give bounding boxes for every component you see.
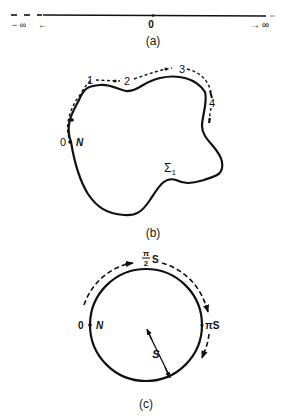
quarter-point-label: π 2 S <box>142 249 159 268</box>
point-pi-s <box>200 323 203 326</box>
right-arrow-icon: → <box>250 19 260 30</box>
real-axis-line <box>43 15 266 16</box>
quarter-label-numerator: π <box>143 249 149 258</box>
point-n <box>88 323 92 327</box>
diagram-canvas: 0 − ∞ ← → ∞ (a) 0 N 1 2 3 4 Σ1 (b) <box>0 0 282 419</box>
point-n <box>68 140 72 144</box>
origin-point <box>152 14 155 17</box>
figure-b-closed-curve: 0 N 1 2 3 4 Σ1 (b) <box>60 63 222 240</box>
start-label-0: 0 <box>60 136 66 148</box>
circle-curve <box>90 269 202 381</box>
quarter-label-denominator: 2 <box>144 259 149 268</box>
quarter-label-suffix: S <box>152 254 159 265</box>
figure-a-number-line: 0 − ∞ ← → ∞ (a) <box>11 14 275 48</box>
half-point-label: πS <box>205 320 220 331</box>
point-label-1: 1 <box>87 74 93 86</box>
direction-marker <box>70 118 74 122</box>
plus-infinity-label: ∞ <box>262 19 269 30</box>
minus-infinity-label: − ∞ <box>12 20 26 30</box>
point-n-label: N <box>96 320 104 331</box>
caption-a: (a) <box>146 34 161 48</box>
figure-c-circle: S 0 N π 2 S πS (c) <box>78 249 220 411</box>
caption-c: (c) <box>139 397 153 411</box>
point-label-4: 4 <box>209 97 215 109</box>
point-label-2: 2 <box>124 75 130 87</box>
direction-arrow-icon <box>206 305 208 312</box>
direction-arrow-icon <box>202 350 205 358</box>
start-label-0: 0 <box>78 320 84 331</box>
direction-marker <box>164 67 167 70</box>
direction-marker <box>113 79 116 82</box>
radius-arrow-inner-icon <box>147 329 152 340</box>
origin-label: 0 <box>148 19 154 30</box>
direction-marker <box>209 118 210 123</box>
surface-sigma-1-curve <box>69 77 223 216</box>
radius-label: S <box>152 348 160 360</box>
direction-arrow-icon <box>125 263 133 264</box>
surface-label: Σ1 <box>164 161 176 177</box>
caption-b: (b) <box>146 226 161 240</box>
point-n-label: N <box>76 137 84 148</box>
point-label-3: 3 <box>179 63 185 75</box>
left-arrow-icon: ← <box>38 19 48 30</box>
